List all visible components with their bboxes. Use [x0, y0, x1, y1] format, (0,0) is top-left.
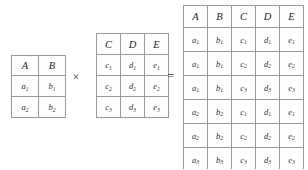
table-cell: e3 — [145, 97, 169, 118]
column-header-a: A — [184, 6, 208, 28]
cell-subscript: 1 — [157, 65, 160, 71]
table-cell: b1 — [208, 28, 232, 52]
cell-subscript: 1 — [133, 65, 136, 71]
table-cell: a1 — [184, 28, 208, 52]
column-header-e: E — [145, 34, 169, 55]
cell-subscript: 1 — [196, 39, 199, 45]
table-cell: a1 — [184, 52, 208, 76]
column-header-d: D — [256, 6, 280, 28]
cell-subscript: 3 — [244, 87, 247, 93]
cell-subscript: 2 — [26, 107, 29, 113]
table-cell: d1 — [256, 28, 280, 52]
table-cell: b1 — [208, 52, 232, 76]
cell-subscript: 2 — [268, 63, 271, 69]
cell-subscript: 2 — [268, 135, 271, 141]
right-relation-table: CDEc1d1e1c2d2e2c3d3e3 — [96, 33, 169, 118]
table-cell: b1 — [208, 76, 232, 100]
cell-subscript: 1 — [109, 65, 112, 71]
cell-subscript: 1 — [220, 87, 223, 93]
table-cell: c2 — [97, 76, 121, 97]
diagram-canvas: ABa1b1a2b2 × CDEc1d1e1c2d2e2c3d3e3 = ABC… — [0, 0, 308, 169]
table-row: c3d3e3 — [97, 97, 169, 118]
cell-subscript: 3 — [109, 107, 112, 113]
table-cell: e2 — [280, 124, 304, 148]
table-row: a3b3c3d3e3 — [184, 148, 304, 170]
table-row: a1b1c1d1e1 — [184, 28, 304, 52]
cell-subscript: 1 — [268, 111, 271, 117]
table-cell: c3 — [232, 148, 256, 170]
table-row: c1d1e1 — [97, 55, 169, 76]
multiplication-operator: × — [68, 71, 84, 83]
cell-subscript: 1 — [268, 39, 271, 45]
table-cell: e1 — [280, 100, 304, 124]
table-cell: a3 — [184, 148, 208, 170]
cell-subscript: 3 — [196, 159, 199, 165]
table-cell: d2 — [256, 52, 280, 76]
table-cell: d2 — [121, 76, 145, 97]
cell-subscript: 1 — [26, 86, 29, 92]
table-cell: b2 — [208, 100, 232, 124]
cell-subscript: 1 — [196, 87, 199, 93]
cell-subscript: 3 — [133, 107, 136, 113]
cell-subscript: 1 — [196, 63, 199, 69]
cell-subscript: 3 — [157, 107, 160, 113]
table-cell: b2 — [208, 124, 232, 148]
table-row: a2b2 — [12, 97, 66, 118]
cell-subscript: 2 — [292, 63, 295, 69]
column-header-a: A — [12, 56, 39, 76]
table-cell: a2 — [184, 124, 208, 148]
cell-subscript: 2 — [220, 111, 223, 117]
table-cell: d3 — [121, 97, 145, 118]
table-cell: e3 — [280, 76, 304, 100]
cell-subscript: 1 — [244, 111, 247, 117]
table-cell: c1 — [232, 100, 256, 124]
column-header-b: B — [39, 56, 66, 76]
cell-subscript: 2 — [244, 135, 247, 141]
table-cell: d3 — [256, 148, 280, 170]
equals-operator: = — [163, 70, 179, 82]
cell-subscript: 3 — [268, 159, 271, 165]
table-cell: a2 — [184, 100, 208, 124]
table-cell: e1 — [280, 28, 304, 52]
column-header-b: B — [208, 6, 232, 28]
cell-subscript: 3 — [268, 87, 271, 93]
cell-subscript: 1 — [244, 39, 247, 45]
table-cell: c1 — [97, 55, 121, 76]
table-cell: c2 — [232, 52, 256, 76]
cell-subscript: 2 — [53, 107, 56, 113]
cell-subscript: 1 — [53, 86, 56, 92]
column-header-c: C — [97, 34, 121, 55]
column-header-d: D — [121, 34, 145, 55]
table-cell: c3 — [97, 97, 121, 118]
table-row: a2b2c2d2e2 — [184, 124, 304, 148]
table-row: a2b2c1d1e1 — [184, 100, 304, 124]
cell-subscript: 2 — [244, 63, 247, 69]
cell-subscript: 3 — [292, 87, 295, 93]
table-cell: b2 — [39, 97, 66, 118]
table-row: a1b1c3d3e3 — [184, 76, 304, 100]
table-cell: b1 — [39, 76, 66, 97]
table-cell: d1 — [256, 100, 280, 124]
table-row: a1b1c2d2e2 — [184, 52, 304, 76]
table-cell: d1 — [121, 55, 145, 76]
cell-subscript: 3 — [292, 159, 295, 165]
table-cell: d3 — [256, 76, 280, 100]
left-relation-table: ABa1b1a2b2 — [11, 55, 66, 118]
cell-subscript: 2 — [157, 86, 160, 92]
column-header-c: C — [232, 6, 256, 28]
cell-subscript: 3 — [244, 159, 247, 165]
cell-subscript: 2 — [109, 86, 112, 92]
table-header-row: CDE — [97, 34, 169, 55]
table-header-row: ABCDE — [184, 6, 304, 28]
table-row: a1b1 — [12, 76, 66, 97]
table-cell: a1 — [184, 76, 208, 100]
table-row: c2d2e2 — [97, 76, 169, 97]
cell-subscript: 1 — [220, 39, 223, 45]
cell-subscript: 1 — [292, 39, 295, 45]
table-cell: a1 — [12, 76, 39, 97]
cell-subscript: 2 — [220, 135, 223, 141]
table-cell: d2 — [256, 124, 280, 148]
table-header-row: AB — [12, 56, 66, 76]
cell-subscript: 1 — [292, 111, 295, 117]
table-cell: c1 — [232, 28, 256, 52]
